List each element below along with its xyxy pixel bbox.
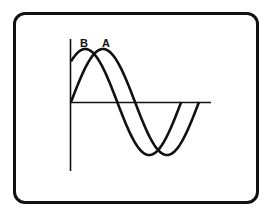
sine-wave-plot: B A [0,0,268,212]
wave-a-label: A [102,37,110,49]
wave-b-label: B [80,37,88,49]
